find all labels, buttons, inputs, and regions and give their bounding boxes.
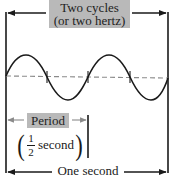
fraction-numerator: 1 <box>28 133 34 144</box>
fraction-denominator: 2 <box>28 147 34 158</box>
period-label: Period <box>27 113 69 128</box>
open-paren: ( <box>17 130 25 160</box>
cycles-label: Two cycles (or two hertz) <box>49 0 130 28</box>
cycles-label-line2: (or two hertz) <box>49 14 130 27</box>
close-paren: ) <box>75 130 83 160</box>
duration-label: One second <box>56 164 120 178</box>
fraction: 1 2 <box>27 133 35 158</box>
period-value: ( 1 2 second ) <box>16 130 84 160</box>
period-unit: second <box>38 137 74 153</box>
